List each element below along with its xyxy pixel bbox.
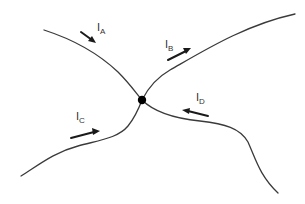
label-ic: IC bbox=[76, 110, 85, 125]
label-id: ID bbox=[196, 91, 205, 106]
arrow-icon-d bbox=[182, 108, 208, 116]
junction-diagram: IA IB IC ID bbox=[0, 0, 305, 204]
wire-c bbox=[21, 100, 142, 176]
arrow-icon-c bbox=[71, 128, 100, 138]
label-ib: IB bbox=[165, 38, 173, 53]
wire-d bbox=[142, 100, 278, 193]
label-ia: IA bbox=[97, 21, 106, 36]
wire-b bbox=[142, 14, 295, 100]
junction-node bbox=[138, 96, 146, 104]
arrow-icon-a bbox=[81, 32, 96, 43]
